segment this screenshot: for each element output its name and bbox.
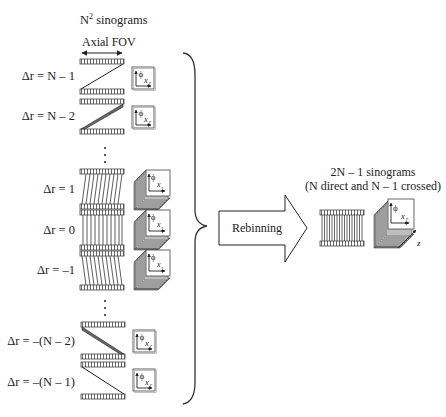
svg-text:ϕ: ϕ: [393, 203, 398, 213]
ellipsis-lower: [104, 300, 106, 316]
rebinning-diagram: ϕ x r ϕ x: [0, 0, 446, 417]
sinogram-stack-icon: [134, 170, 170, 210]
sinogram-icon: [133, 369, 157, 393]
axial-fov-label: Axial FOV: [82, 36, 136, 48]
rebinned-sinogram-block: ϕ x r z: [374, 199, 421, 248]
diagram-title: N2 sinograms: [80, 13, 148, 27]
sinogram-stack-delta-0: [80, 210, 170, 250]
ellipsis-upper: [104, 147, 106, 163]
oblique-sinogram-n-minus-1: [80, 59, 156, 94]
rebinned-sinogram-stack: [320, 210, 364, 246]
sinogram-stack-icon: [134, 210, 170, 250]
row-label-n-minus-1: Δr = N – 1: [0, 70, 75, 83]
svg-text:z: z: [416, 238, 421, 248]
output-title: 2N – 1 sinograms: [300, 166, 446, 178]
row-label-minus-1: Δr = –1: [0, 264, 75, 277]
oblique-sinogram-n-minus-2: [80, 99, 156, 134]
sinogram-stack-delta-1: [80, 169, 170, 210]
rebinning-label: Rebinning: [232, 222, 282, 234]
row-label-n-minus-2: Δr = N – 2: [0, 110, 75, 123]
oblique-sinogram-minus-n-minus-1: [81, 362, 157, 399]
oblique-sinogram-minus-n-minus-2: [81, 322, 157, 359]
sinogram-icon: [132, 67, 156, 91]
output-subtitle: (N direct and N – 1 crossed): [300, 180, 446, 192]
grouping-brace: [183, 53, 207, 404]
svg-text:x: x: [400, 211, 405, 221]
diagram-canvas: ϕ x r ϕ x: [0, 0, 446, 417]
row-label-0: Δr = 0: [0, 224, 75, 237]
row-label-1: Δr = 1: [0, 183, 75, 196]
sinogram-icon: [132, 106, 156, 130]
sinogram-stack-icon: [134, 250, 170, 290]
sinogram-icon: [133, 330, 157, 354]
row-label-minus-n-minus-2: Δr = –(N – 2): [0, 335, 75, 348]
row-label-minus-n-minus-1: Δr = –(N – 1): [0, 376, 75, 389]
sinogram-stack-delta-minus-1: [80, 250, 170, 290]
